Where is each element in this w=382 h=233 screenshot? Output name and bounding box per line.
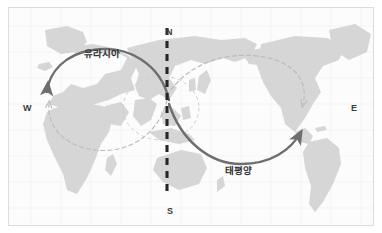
figure-frame: N S W E 유라시아 태평양 [8,7,374,226]
compass-label-south: S [167,207,173,216]
world-map-svg [9,8,374,226]
route-label-pacific: 태평양 [225,166,252,176]
compass-label-west: W [23,104,32,113]
compass-label-east: E [351,104,357,113]
landmass-korea [189,78,196,92]
route-label-eurasia: 유라시아 [84,49,120,59]
compass-label-north: N [166,28,173,37]
map-figure: N S W E 유라시아 태평양 [0,0,382,233]
